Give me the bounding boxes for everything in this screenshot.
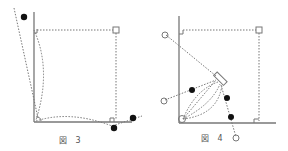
fig4-hollow-dot-bottom xyxy=(233,135,239,141)
figure-3 xyxy=(14,8,142,126)
fig4-fan-line-4 xyxy=(183,85,222,119)
fig3-dot-right xyxy=(130,115,136,121)
figure-3-caption: 図 3 xyxy=(59,134,84,145)
fig4-dot-right-upper xyxy=(224,95,230,101)
fig3-arc-left xyxy=(34,30,44,120)
fig3-dot-top-left xyxy=(21,14,27,20)
fig3-corner-box-top-right xyxy=(113,27,119,33)
fig4-line-upper-left xyxy=(166,35,216,76)
figure-4 xyxy=(161,16,276,141)
fig4-dot-right-lower xyxy=(228,114,234,120)
fig4-corner-box-top-right xyxy=(256,27,262,33)
diagram-canvas xyxy=(0,0,288,151)
fig4-line-lower-right xyxy=(221,85,236,137)
figure-4-caption: 図 4 xyxy=(201,132,226,143)
fig4-fan-line-1 xyxy=(183,80,216,119)
fig4-hinge-box xyxy=(214,72,227,85)
fig3-arc-bottom xyxy=(36,116,142,126)
fig4-hollow-dot-left xyxy=(161,98,167,104)
fig4-dot-left xyxy=(189,87,195,93)
fig3-dot-bottom xyxy=(111,125,117,131)
fig4-fan-line-2 xyxy=(183,82,218,119)
fig4-hollow-dot-top xyxy=(162,32,168,38)
